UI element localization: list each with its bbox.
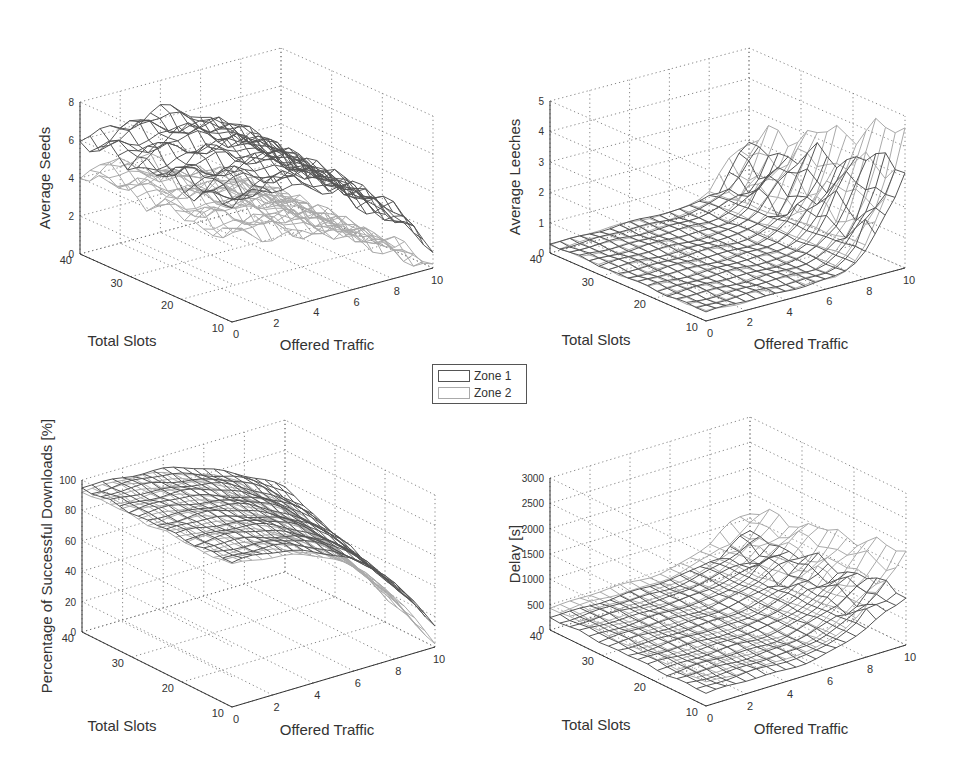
x-axis-label: Offered Traffic xyxy=(754,335,849,352)
svg-text:10: 10 xyxy=(212,322,224,334)
z-axis-label: Delay [s] xyxy=(506,525,523,583)
svg-text:0: 0 xyxy=(70,627,76,638)
svg-text:30: 30 xyxy=(110,277,122,289)
svg-text:6: 6 xyxy=(355,677,361,689)
axes-grid xyxy=(82,420,435,707)
chart-delay: 024681010203040050010001500200025003000O… xyxy=(480,380,961,762)
y-axis-label: Total Slots xyxy=(561,331,630,348)
svg-text:0: 0 xyxy=(707,327,713,339)
legend-label-zone2: Zone 2 xyxy=(474,386,511,400)
axes-grid xyxy=(550,417,906,706)
legend-label-zone1: Zone 1 xyxy=(474,369,511,383)
svg-text:6: 6 xyxy=(354,296,360,308)
chart-average-leeches: 024681010203040012345Offered TrafficTota… xyxy=(480,0,961,360)
svg-text:10: 10 xyxy=(903,274,915,286)
z-axis-label: Average Leeches xyxy=(506,119,523,235)
svg-text:10: 10 xyxy=(904,651,916,663)
x-axis-label: Offered Traffic xyxy=(280,721,375,738)
legend-swatch-zone1 xyxy=(438,370,470,382)
svg-text:20: 20 xyxy=(634,681,646,693)
svg-text:0: 0 xyxy=(538,625,544,636)
x-axis-label: Offered Traffic xyxy=(280,336,375,353)
svg-text:2000: 2000 xyxy=(522,524,545,535)
surface-zone1 xyxy=(80,105,433,253)
legend-item-zone2: Zone 2 xyxy=(438,386,511,400)
surface-zone1 xyxy=(82,467,435,626)
svg-text:20: 20 xyxy=(65,597,77,608)
svg-text:500: 500 xyxy=(527,600,544,611)
svg-text:60: 60 xyxy=(65,536,77,547)
svg-text:0: 0 xyxy=(707,712,713,724)
svg-text:6: 6 xyxy=(68,135,74,146)
x-axis-label: Offered Traffic xyxy=(754,720,849,737)
axes xyxy=(80,102,433,322)
svg-text:100: 100 xyxy=(59,475,76,486)
legend-item-zone1: Zone 1 xyxy=(438,369,511,383)
svg-text:4: 4 xyxy=(314,689,320,701)
svg-text:6: 6 xyxy=(826,295,832,307)
svg-text:1500: 1500 xyxy=(522,549,545,560)
svg-text:1000: 1000 xyxy=(522,574,545,585)
z-axis-label: Average Seeds xyxy=(36,127,53,229)
svg-text:2: 2 xyxy=(747,316,753,328)
svg-text:20: 20 xyxy=(162,682,174,694)
svg-text:4: 4 xyxy=(538,126,544,137)
svg-text:30: 30 xyxy=(582,276,594,288)
svg-text:1: 1 xyxy=(538,218,544,229)
svg-text:2: 2 xyxy=(538,187,544,198)
svg-text:8: 8 xyxy=(394,285,400,297)
chart-average-seeds: 02468101020304002468Offered TrafficTotal… xyxy=(0,0,480,360)
svg-text:30: 30 xyxy=(582,655,594,667)
svg-text:4: 4 xyxy=(787,688,793,700)
svg-text:4: 4 xyxy=(68,173,74,184)
y-axis-label: Total Slots xyxy=(87,717,156,734)
svg-text:2: 2 xyxy=(274,701,280,713)
svg-text:8: 8 xyxy=(68,97,74,108)
svg-text:10: 10 xyxy=(433,653,445,665)
svg-text:4: 4 xyxy=(313,306,319,318)
legend: Zone 1 Zone 2 xyxy=(432,364,527,404)
svg-text:6: 6 xyxy=(827,675,833,687)
surface-zone1 xyxy=(550,142,905,312)
svg-text:30: 30 xyxy=(112,657,124,669)
axis-labels: Offered TrafficTotal SlotsAverage Seeds xyxy=(36,127,375,353)
legend-swatch-zone2 xyxy=(438,387,470,399)
svg-text:2: 2 xyxy=(68,211,74,222)
svg-text:40: 40 xyxy=(65,566,77,577)
svg-text:8: 8 xyxy=(395,665,401,677)
svg-text:20: 20 xyxy=(161,299,173,311)
svg-text:5: 5 xyxy=(538,96,544,107)
svg-text:10: 10 xyxy=(212,707,224,719)
svg-text:2: 2 xyxy=(273,317,279,329)
svg-text:4: 4 xyxy=(787,306,793,318)
svg-text:0: 0 xyxy=(68,249,74,260)
svg-text:0: 0 xyxy=(538,248,544,259)
svg-text:10: 10 xyxy=(431,274,443,286)
axis-labels: Offered TrafficTotal SlotsAverage Leeche… xyxy=(506,119,849,352)
svg-text:10: 10 xyxy=(686,706,698,718)
axis-labels: Offered TrafficTotal SlotsDelay [s] xyxy=(506,525,849,737)
svg-text:3000: 3000 xyxy=(522,473,545,484)
svg-text:2500: 2500 xyxy=(522,498,545,509)
svg-text:0: 0 xyxy=(233,328,239,340)
svg-text:8: 8 xyxy=(866,285,872,297)
axis-labels: Offered TrafficTotal SlotsPercentage of … xyxy=(38,419,375,738)
y-axis-label: Total Slots xyxy=(561,716,630,733)
svg-text:2: 2 xyxy=(747,700,753,712)
svg-text:10: 10 xyxy=(686,321,698,333)
svg-text:0: 0 xyxy=(233,713,239,725)
svg-text:8: 8 xyxy=(867,663,873,675)
y-axis-label: Total Slots xyxy=(87,332,156,349)
svg-text:3: 3 xyxy=(538,157,544,168)
svg-text:80: 80 xyxy=(65,505,77,516)
svg-text:20: 20 xyxy=(634,298,646,310)
z-axis-label: Percentage of Successful Downloads [%] xyxy=(38,419,55,693)
chart-successful-downloads: 024681010203040020406080100Offered Traff… xyxy=(0,380,480,762)
